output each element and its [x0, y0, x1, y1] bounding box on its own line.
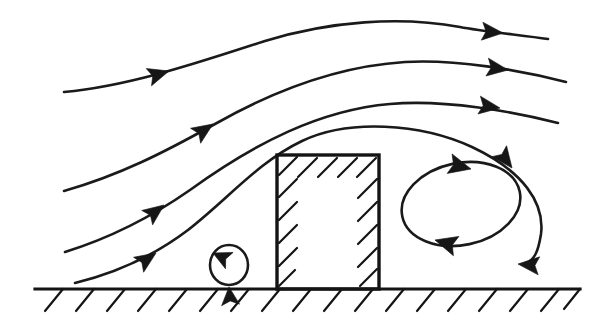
ground-hatching: [45, 289, 580, 311]
streamline-1-arrow-a: [146, 62, 171, 85]
ground-surface: [35, 289, 580, 311]
streamline-3-arrow-b: [478, 96, 501, 117]
lee-eddy-arrow-bottom: [432, 230, 459, 255]
lee-eddy-arrow-top: [447, 154, 473, 179]
streamline-4-arrow-c: [517, 255, 539, 275]
streamline-2-arrow-b: [486, 58, 509, 79]
flow-diagram-canvas: [0, 0, 608, 322]
upstream-vortex-loop: [210, 245, 248, 285]
flow-diagram-figure: [0, 0, 608, 322]
streamline-3-arrow-a: [142, 198, 170, 225]
building-outline: [277, 155, 379, 289]
building: [277, 155, 379, 289]
streamline-2-arrow-a: [191, 117, 218, 144]
